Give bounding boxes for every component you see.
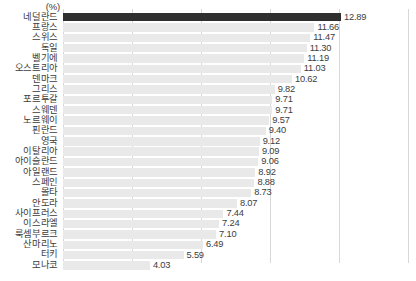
- category-label: 덴마크: [0, 74, 58, 85]
- value-label: 5.59: [187, 250, 204, 261]
- category-label: 이스라엘: [0, 218, 58, 229]
- value-label: 9.57: [272, 115, 289, 126]
- table-row: 독일11.30: [0, 43, 416, 53]
- bar-track: 11.03: [63, 65, 416, 73]
- bar: [63, 116, 269, 124]
- category-label: 노르웨이: [0, 115, 58, 126]
- value-label: 11.19: [307, 53, 329, 64]
- table-row: 이탈리아9.09: [0, 146, 416, 156]
- value-label: 4.03: [153, 260, 170, 271]
- bar: [63, 127, 266, 135]
- bar-track: 9.12: [63, 137, 416, 145]
- value-label: 8.92: [258, 167, 275, 178]
- bar-track: 6.49: [63, 241, 416, 249]
- bar: [63, 220, 219, 228]
- bar: [63, 261, 150, 269]
- value-label: 11.47: [313, 32, 335, 43]
- bar: [63, 75, 292, 83]
- unit-label: (%): [0, 1, 60, 12]
- bar: [63, 23, 314, 31]
- category-label: 포르투갈: [0, 94, 58, 105]
- value-label: 7.10: [219, 229, 236, 240]
- value-label: 9.71: [275, 105, 292, 116]
- table-row: 스위스11.47: [0, 33, 416, 43]
- table-row: 몰타8.73: [0, 188, 416, 198]
- bar-track: 11.30: [63, 44, 416, 52]
- category-label: 그리스: [0, 84, 58, 95]
- bar-rows: 네덜란드12.89프랑스11.66스위스11.47독일11.30벨기에11.19…: [0, 12, 416, 271]
- category-label: 룩셈부르크: [0, 229, 58, 240]
- table-row: 아일랜드8.92: [0, 167, 416, 177]
- category-label: 아이슬란드: [0, 156, 58, 167]
- bar: [63, 251, 184, 259]
- value-label: 9.09: [262, 146, 279, 157]
- bar: [63, 189, 251, 197]
- value-label: 10.62: [295, 74, 317, 85]
- table-row: 모나코4.03: [0, 260, 416, 270]
- bar: [63, 85, 275, 93]
- bar-track: 9.71: [63, 106, 416, 114]
- table-row: 프랑스11.66: [0, 22, 416, 32]
- bar: [63, 34, 310, 42]
- category-label: 모나코: [0, 260, 58, 271]
- bar-track: 9.82: [63, 85, 416, 93]
- bar: [63, 147, 259, 155]
- table-row: 이스라엘7.24: [0, 219, 416, 229]
- value-label: 9.40: [269, 125, 286, 136]
- value-label: 8.07: [240, 198, 257, 209]
- value-label: 9.71: [275, 94, 292, 105]
- table-row: 네덜란드12.89: [0, 12, 416, 22]
- value-label: 11.30: [310, 43, 332, 54]
- table-row: 아이슬란드9.06: [0, 157, 416, 167]
- category-label: 터키: [0, 249, 58, 260]
- bar-track: 8.73: [63, 189, 416, 197]
- bar-track: 8.88: [63, 179, 416, 187]
- table-row: 사이프러스7.44: [0, 209, 416, 219]
- table-row: 안도라8.07: [0, 198, 416, 208]
- category-label: 이탈리아: [0, 146, 58, 157]
- category-label: 벨기에: [0, 53, 58, 64]
- bar-track: 4.03: [63, 261, 416, 269]
- category-label: 프랑스: [0, 22, 58, 33]
- category-label: 사이프러스: [0, 208, 58, 219]
- bar: [63, 230, 216, 238]
- value-label: 8.88: [257, 177, 274, 188]
- bar: [63, 199, 237, 207]
- bar: [63, 168, 255, 176]
- category-label: 몰타: [0, 187, 58, 198]
- bar: [63, 158, 258, 166]
- table-row: 산마리노6.49: [0, 240, 416, 250]
- table-row: 벨기에11.19: [0, 53, 416, 63]
- value-label: 12.89: [344, 12, 366, 23]
- bar-track: 11.47: [63, 34, 416, 42]
- bar-track: 9.09: [63, 147, 416, 155]
- category-label: 스위스: [0, 32, 58, 43]
- table-row: 덴마크10.62: [0, 74, 416, 84]
- bar-track: 9.57: [63, 116, 416, 124]
- bar: [63, 241, 203, 249]
- table-row: 오스트리아11.03: [0, 64, 416, 74]
- table-row: 그리스9.82: [0, 84, 416, 94]
- bar-track: 7.24: [63, 220, 416, 228]
- table-row: 터키5.59: [0, 250, 416, 260]
- category-label: 아일랜드: [0, 167, 58, 178]
- category-label: 독일: [0, 43, 58, 54]
- bar: [63, 137, 260, 145]
- bar: [63, 44, 307, 52]
- bar-track: 11.19: [63, 54, 416, 62]
- value-label: 11.66: [317, 22, 339, 33]
- bar-track: 10.62: [63, 75, 416, 83]
- bar-track: 5.59: [63, 251, 416, 259]
- bar: [63, 179, 254, 187]
- value-label: 9.82: [278, 84, 295, 95]
- category-label: 스페인: [0, 177, 58, 188]
- bar: [63, 106, 272, 114]
- bar: [63, 13, 341, 21]
- category-label: 스웨덴: [0, 105, 58, 116]
- table-row: 영국9.12: [0, 136, 416, 146]
- category-label: 영국: [0, 136, 58, 147]
- category-label: 네덜란드: [0, 12, 58, 23]
- bar-track: 7.44: [63, 210, 416, 218]
- bar-track: 9.06: [63, 158, 416, 166]
- table-row: 스웨덴9.71: [0, 105, 416, 115]
